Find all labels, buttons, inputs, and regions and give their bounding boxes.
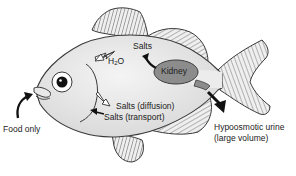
- salts-transport-label: Salts (transport): [104, 112, 164, 122]
- urine-label-line2: (large volume): [214, 133, 268, 143]
- food-only-label: Food only: [3, 124, 40, 134]
- kidney-label: Kidney: [161, 66, 187, 76]
- fish-diagram: Salts H2O Kidney Salts (diffusion) Salts…: [0, 0, 296, 176]
- salts-diffusion-label: Salts (diffusion): [116, 101, 174, 111]
- tail-fin: [218, 40, 270, 115]
- dorsal-spiny-fin: [92, 8, 148, 36]
- water-label: H2O: [108, 56, 124, 68]
- urine-label-line1: Hypoosmotic urine: [214, 122, 284, 132]
- food-in-arrow: [17, 92, 33, 118]
- water-label-o: O: [117, 56, 124, 66]
- pelvic-fin: [112, 134, 144, 162]
- salts-top-label: Salts: [133, 41, 152, 51]
- fish-eye: [52, 72, 72, 92]
